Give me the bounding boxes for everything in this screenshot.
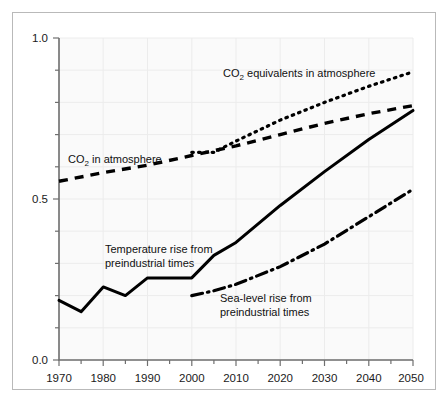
x-axis-ticks [59,360,413,366]
annotation-sealevel-line1: Sea-level rise from [220,292,312,304]
x-tick-label-2010: 2010 [223,372,249,384]
annotation-temperature-line2: preindustrial times [105,257,195,269]
x-tick-label-2040: 2040 [356,372,382,384]
annotation-sealevel-line2: preindustrial times [220,306,310,318]
y-tick-label-0: 0.0 [32,354,48,366]
x-tick-label-1970: 1970 [46,372,72,384]
y-tick-label-1: 1.0 [32,32,48,44]
x-tick-label-2050: 2050 [398,372,424,384]
y-axis-ticks [53,38,59,360]
x-tick-label-2030: 2030 [312,372,338,384]
y-tick-label-0-5: 0.5 [32,193,48,205]
x-tick-label-2020: 2020 [267,372,293,384]
x-tick-label-1990: 1990 [135,372,161,384]
annotation-temperature-line1: Temperature rise from [105,243,213,255]
x-tick-label-2000: 2000 [179,372,205,384]
chart-figure: 1.0 0.5 0.0 1970 1980 1990 2000 2010 202… [0,0,448,413]
climate-projection-line-chart: 1.0 0.5 0.0 1970 1980 1990 2000 2010 202… [0,0,448,413]
x-tick-label-1980: 1980 [90,372,116,384]
